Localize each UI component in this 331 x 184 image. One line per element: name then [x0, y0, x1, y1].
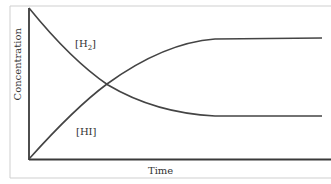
h2-curve	[29, 8, 322, 116]
h2-label-open: [H	[75, 38, 88, 49]
h2-series-label: [H2]	[75, 38, 96, 52]
h2-label-close: ]	[92, 38, 96, 49]
y-axis-label: Concentration	[12, 31, 23, 101]
x-axis-label: Time	[148, 165, 173, 176]
chart	[0, 0, 331, 184]
hi-series-label: [HI]	[76, 126, 96, 137]
